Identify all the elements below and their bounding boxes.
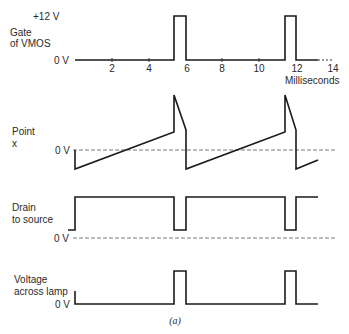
pointx-title-line2: x [12, 138, 17, 149]
waveform-diagram: +12 V Gate of VMOS 0 V 2 4 6 8 10 12 14 … [0, 0, 349, 334]
figure-caption: (a) [169, 315, 181, 327]
drain-title-line2: to source [12, 214, 54, 225]
drain-zero-label: 0 V [54, 233, 69, 244]
x-axis-unit: Milliseconds [285, 75, 339, 86]
tick-12: 12 [291, 63, 303, 74]
tick-6: 6 [184, 63, 190, 74]
pointx-zero-label: 0 V [55, 145, 70, 156]
tick-10: 10 [253, 63, 265, 74]
gate-trace [75, 16, 318, 60]
gate-high-label: +12 V [33, 11, 60, 22]
tick-2: 2 [109, 63, 115, 74]
lamp-trace [75, 271, 318, 304]
gate-title-line1: Gate [10, 27, 32, 38]
gate-zero-label: 0 V [54, 55, 69, 66]
tick-8: 8 [219, 63, 225, 74]
lamp-zero-label: 0 V [55, 299, 70, 310]
lamp-title-line1: Voltage [14, 274, 48, 285]
pointx-title-line1: Point [12, 126, 35, 137]
pointx-trace [75, 95, 318, 169]
lamp-title-line2: across lamp [14, 286, 68, 297]
drain-title-line1: Drain [12, 202, 36, 213]
gate-title-line2: of VMOS [10, 38, 51, 49]
drain-trace [68, 197, 318, 230]
tick-14: 14 [327, 63, 339, 74]
tick-4: 4 [146, 63, 152, 74]
